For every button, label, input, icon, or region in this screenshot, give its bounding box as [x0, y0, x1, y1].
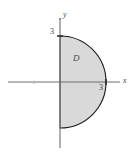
y-axis-label: y [63, 11, 67, 19]
region-label-d: D [73, 54, 80, 63]
figure-canvas [0, 0, 133, 153]
x-axis-label: x [123, 77, 127, 85]
x-axis-tick-label-3: 3 [99, 84, 103, 92]
semicircle-region-figure: y x 3 3 D [0, 0, 133, 153]
y-axis-tick-label-3: 3 [50, 28, 54, 36]
